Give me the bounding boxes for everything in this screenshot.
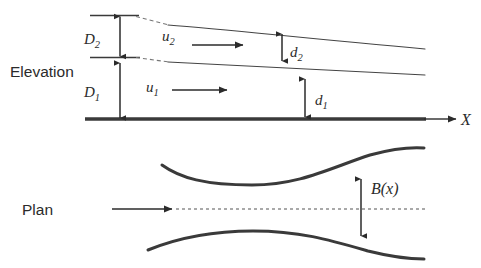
d2-subscript: 2 xyxy=(298,52,304,63)
elevation-section: Elevation D2 D1 u2 u1 xyxy=(10,16,472,129)
flow-definition-diagram: Elevation D2 D1 u2 u1 xyxy=(0,0,481,268)
figure-root: Elevation D2 D1 u2 u1 xyxy=(0,0,481,268)
D2-subscript: 2 xyxy=(95,39,101,50)
upper-surface-dashed-lead xyxy=(136,17,169,26)
u1-base: u xyxy=(146,79,154,95)
plan-lower-bank-curve xyxy=(148,231,424,259)
u2-base: u xyxy=(162,28,170,44)
interface-dashed-lead xyxy=(136,58,169,63)
plan-section: Plan B(x) xyxy=(22,148,428,259)
u2-label: u2 xyxy=(162,28,176,47)
x-axis-label: X xyxy=(460,111,472,128)
d1-subscript: 1 xyxy=(323,100,328,111)
elevation-section-label: Elevation xyxy=(10,63,74,80)
d1-label: d1 xyxy=(315,92,328,111)
D2-base: D xyxy=(83,31,95,47)
u1-subscript: 1 xyxy=(154,87,159,98)
u1-label: u1 xyxy=(146,79,159,98)
D1-label: D1 xyxy=(83,84,100,103)
plan-section-label: Plan xyxy=(22,201,53,218)
D2-label: D2 xyxy=(83,31,101,50)
d2-label: d2 xyxy=(290,44,304,63)
Bx-label: B(x) xyxy=(371,180,399,198)
D1-subscript: 1 xyxy=(95,92,100,103)
layer-interface-line xyxy=(168,62,425,75)
u2-subscript: 2 xyxy=(170,36,176,47)
D1-base: D xyxy=(83,84,95,100)
